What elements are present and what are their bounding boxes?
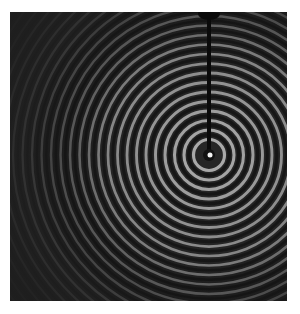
- ripple-photo: [10, 12, 287, 301]
- center-highlight: [208, 153, 213, 158]
- ripple-pattern: [10, 12, 287, 301]
- probe-rod: [207, 12, 211, 152]
